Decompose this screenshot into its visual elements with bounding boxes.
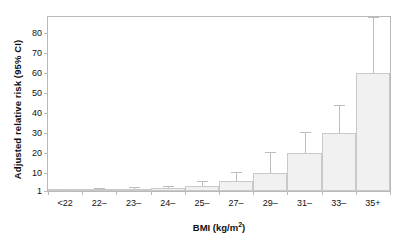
y-axis-tick-label: 10	[32, 168, 42, 178]
y-axis-tick	[44, 73, 48, 74]
x-axis-tick	[390, 191, 391, 195]
x-axis-tick-label: 22–	[92, 198, 107, 208]
error-bar-cap	[334, 105, 345, 106]
x-axis-title: BMI (kg/m2)	[47, 221, 391, 233]
error-bar-cap	[94, 188, 105, 189]
bar[interactable]	[219, 181, 253, 191]
x-axis-tick	[253, 191, 254, 195]
y-axis-tick-label: 80	[32, 28, 42, 38]
x-axis-tick-label: 24–	[160, 198, 175, 208]
x-axis-tick-label: 25–	[194, 198, 209, 208]
bar[interactable]	[116, 189, 150, 191]
y-axis-tick-label: 1	[37, 186, 42, 196]
error-bar-cap	[265, 152, 276, 153]
error-bar-cap	[300, 132, 311, 133]
error-bar-cap	[197, 181, 208, 182]
y-axis-tick	[44, 53, 48, 54]
x-axis-tick	[356, 191, 357, 195]
y-axis-tick-label: 20	[32, 148, 42, 158]
x-axis-tick	[82, 191, 83, 195]
x-axis-tick	[116, 191, 117, 195]
y-axis-tick	[44, 93, 48, 94]
bar[interactable]	[287, 153, 321, 191]
error-bar-stem	[373, 17, 374, 73]
y-axis-tick-label: 70	[32, 48, 42, 58]
error-bar-cap	[231, 172, 242, 173]
error-bar-cap	[368, 17, 379, 18]
x-axis-tick-label: <22	[57, 198, 72, 208]
x-axis-tick-label: 33–	[331, 198, 346, 208]
error-bar-cap	[163, 186, 174, 187]
error-bar-cap	[129, 187, 140, 188]
x-axis-tick	[322, 191, 323, 195]
x-axis-tick	[219, 191, 220, 195]
error-bar-stem	[270, 152, 271, 173]
y-axis-tick	[44, 113, 48, 114]
x-axis-tick	[287, 191, 288, 195]
error-bar-stem	[305, 132, 306, 153]
x-axis-title-tail: )	[242, 222, 245, 233]
x-axis-tick-label: 31–	[297, 198, 312, 208]
error-bar-cap	[60, 191, 71, 192]
x-axis-tick	[185, 191, 186, 195]
x-axis-tick-label: 23–	[126, 198, 141, 208]
error-bar-stem	[339, 105, 340, 133]
chart-container: Adjusted relative risk (95% CI) 11020304…	[0, 0, 408, 245]
x-axis-tick-label: 29–	[263, 198, 278, 208]
x-axis-tick-label: 35+	[365, 198, 380, 208]
y-axis-tick-label: 60	[32, 68, 42, 78]
y-axis-tick	[44, 33, 48, 34]
bar[interactable]	[185, 186, 219, 191]
y-axis-tick-label: 40	[32, 108, 42, 118]
y-axis-title: Adjusted relative risk (95% CI)	[12, 25, 23, 195]
plot-area: 11020304050607080<2222–23–24–25–27–29–31…	[47, 16, 391, 192]
bar[interactable]	[356, 73, 390, 191]
error-bar-stem	[236, 172, 237, 181]
y-axis-tick-label: 50	[32, 88, 42, 98]
x-axis-title-main: BMI (kg/m	[193, 222, 238, 233]
x-axis-tick-label: 27–	[229, 198, 244, 208]
y-axis-tick	[44, 133, 48, 134]
bar[interactable]	[322, 133, 356, 191]
x-axis-tick	[48, 191, 49, 195]
bar[interactable]	[253, 173, 287, 191]
y-axis-tick	[44, 153, 48, 154]
x-axis-tick	[151, 191, 152, 195]
bar[interactable]	[151, 188, 185, 191]
y-axis-tick	[44, 173, 48, 174]
y-axis-tick-label: 30	[32, 128, 42, 138]
